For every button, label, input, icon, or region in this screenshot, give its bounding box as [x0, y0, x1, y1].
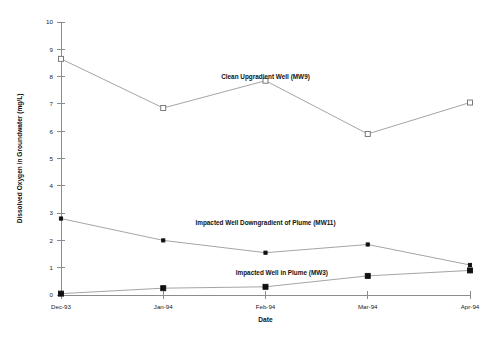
data-point-marker [468, 263, 471, 266]
chart-axes: 012345678910Dec-93Jan-94Feb-94Mar-94Apr-… [46, 18, 480, 310]
y-tick-label: 8 [50, 73, 54, 80]
data-point-marker [263, 284, 268, 289]
y-tick-label: 1 [50, 264, 54, 271]
data-point-marker [59, 291, 64, 296]
data-point-marker [161, 106, 166, 111]
y-tick-label: 4 [50, 182, 54, 189]
y-axis-title: Dissolved Oxygen in Groundwater (mg/L) [16, 94, 24, 224]
data-point-marker [468, 100, 473, 105]
y-tick-label: 5 [50, 155, 54, 162]
x-tick-label: Apr-94 [461, 303, 480, 310]
series-annotation-1: Impacted Well Downgradient of Plume (MW1… [195, 219, 335, 227]
y-tick-label: 2 [50, 237, 54, 244]
x-tick-label: Mar-94 [358, 303, 378, 310]
chart-series [59, 56, 473, 296]
data-point-marker [468, 268, 473, 273]
data-point-marker [59, 217, 62, 220]
series-annotation-0: Clean Upgradient Well (MW9) [221, 73, 310, 81]
data-point-marker [264, 251, 267, 254]
data-point-marker [365, 131, 370, 136]
data-point-marker [162, 239, 165, 242]
y-tick-label: 0 [50, 291, 54, 298]
data-point-marker [365, 273, 370, 278]
data-point-marker [161, 286, 166, 291]
y-tick-label: 7 [50, 100, 54, 107]
chart-canvas: 012345678910Dec-93Jan-94Feb-94Mar-94Apr-… [0, 0, 492, 339]
chart-labels: DateDissolved Oxygen in Groundwater (mg/… [16, 73, 336, 323]
x-tick-label: Feb-94 [256, 303, 276, 310]
x-axis-title: Date [258, 316, 273, 323]
y-tick-label: 3 [50, 209, 54, 216]
y-tick-label: 6 [50, 128, 54, 135]
x-tick-label: Jan-94 [154, 303, 173, 310]
data-point-marker [59, 56, 64, 61]
y-tick-label: 9 [50, 46, 54, 53]
y-tick-label: 10 [46, 18, 53, 25]
series-annotation-2: Impacted Well in Plume (MW3) [236, 269, 328, 277]
chart-figure: 012345678910Dec-93Jan-94Feb-94Mar-94Apr-… [0, 0, 492, 339]
data-point-marker [366, 243, 369, 246]
x-tick-label: Dec-93 [51, 303, 72, 310]
series-line-0 [61, 59, 470, 134]
